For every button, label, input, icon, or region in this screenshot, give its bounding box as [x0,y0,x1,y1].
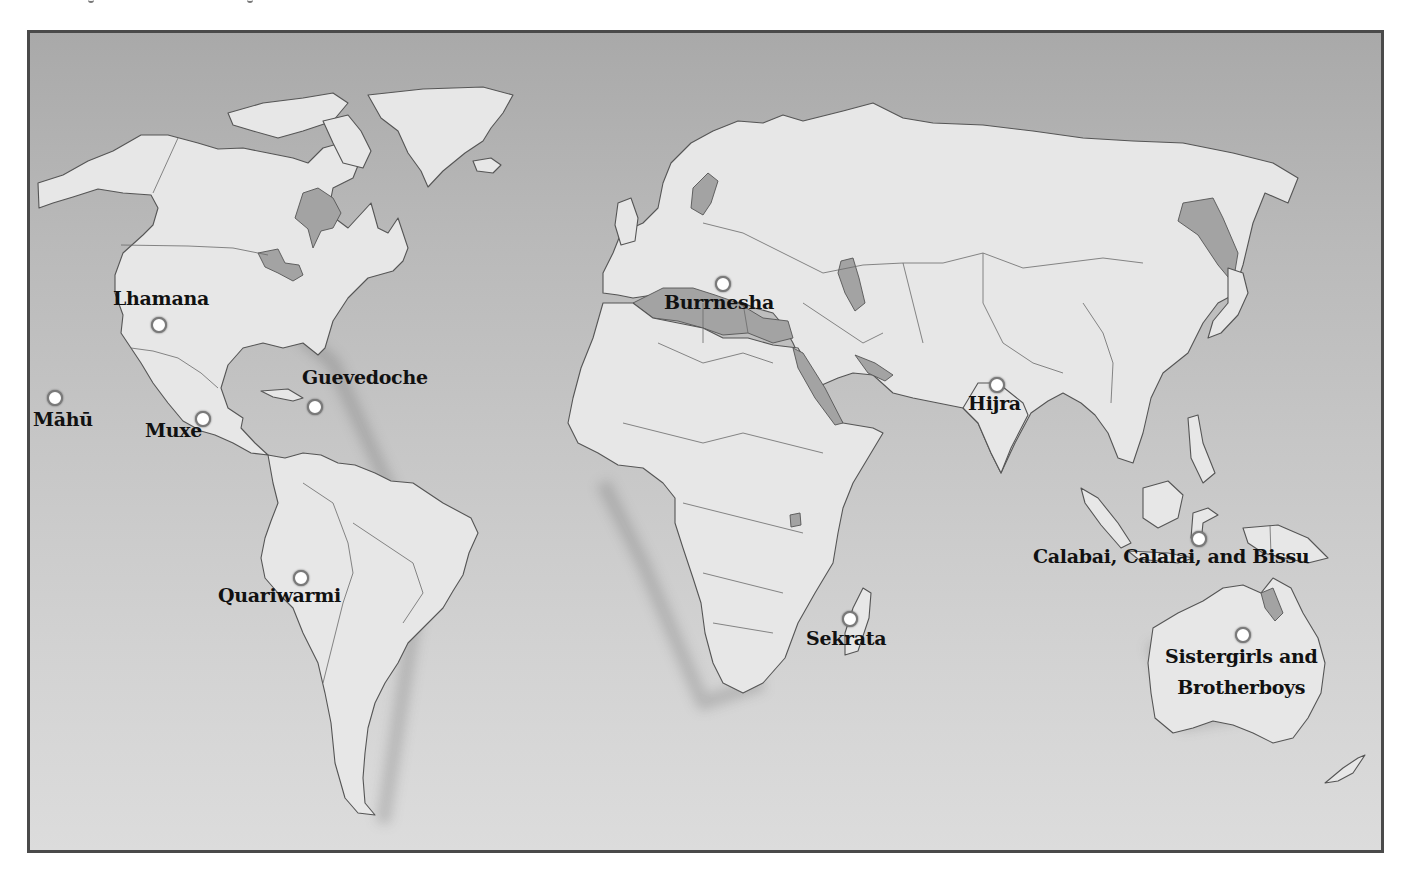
land-new-zealand [1325,755,1365,783]
label-line: Sekrata [806,623,886,654]
label-line: Sistergirls and [1165,641,1317,672]
label-burrnesha: Burrnesha [664,287,774,318]
cropped-text-fragments [0,0,1408,10]
label-calabai: Calabai, Calalai, and Bissu [1033,541,1309,572]
world-map-svg [30,33,1381,850]
label-line: Guevedoche [302,362,428,393]
label-line: Calabai, Calalai, and Bissu [1033,541,1309,572]
label-sistergirls: Sistergirls andBrotherboys [1165,641,1317,703]
marker-lhamana[interactable] [151,317,167,333]
lake-victoria [790,513,801,527]
label-quariwarmi: Quariwarmi [218,580,341,611]
world-map: LhamanaGuevedocheMāhūMuxeQuariwarmiBurrn… [27,30,1384,853]
land-sumatra [1081,488,1131,548]
label-hijra: Hijra [968,388,1021,419]
label-line: Māhū [33,404,93,435]
label-line: Quariwarmi [218,580,341,611]
label-line: Hijra [968,388,1021,419]
label-line: Burrnesha [664,287,774,318]
marker-guevedoche[interactable] [307,399,323,415]
label-line: Muxe [145,415,202,446]
land-great-britain [615,198,638,245]
land-iceland [473,158,501,173]
label-line: Brotherboys [1165,672,1317,703]
label-muxe: Muxe [145,415,202,446]
land-south-america [261,453,478,815]
label-sekrata: Sekrata [806,623,886,654]
label-guevedoche: Guevedoche [302,362,428,393]
label-line: Lhamana [113,283,209,314]
land-cuba [261,389,303,401]
land-borneo [1143,481,1183,528]
label-mahu: Māhū [33,404,93,435]
label-lhamana: Lhamana [113,283,209,314]
land-philippines [1188,415,1215,483]
